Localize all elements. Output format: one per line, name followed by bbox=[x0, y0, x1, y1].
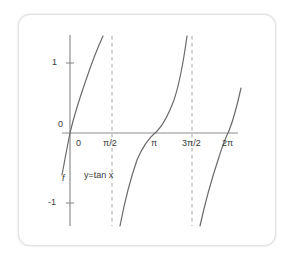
y-axis-tick-label-1: 1 bbox=[52, 58, 57, 67]
origin-label: 0 bbox=[58, 120, 63, 129]
tan-branch-3 bbox=[200, 88, 241, 226]
plot-canvas bbox=[0, 0, 296, 261]
tan-branch-1 bbox=[62, 36, 103, 175]
x-axis-tick-label-2pi: 2π bbox=[222, 139, 233, 148]
y-axis-tick-label-minus-1: -1 bbox=[48, 198, 56, 207]
equation-annotation: y=tan x bbox=[84, 171, 113, 180]
x-axis-tick-label-pi-over-2: π/2 bbox=[103, 139, 117, 148]
x-axis-tick-label-3pi-over-2: 3π/2 bbox=[182, 139, 201, 148]
tan-branch-2 bbox=[120, 36, 187, 226]
y-axis-function-label: f bbox=[62, 174, 65, 183]
x-axis-tick-label-pi: π bbox=[151, 139, 157, 148]
function-plot: 1 -1 0 0 π/2 π 3π/2 2π f y=tan x bbox=[0, 0, 296, 261]
x-axis-tick-label-0: 0 bbox=[76, 139, 81, 148]
